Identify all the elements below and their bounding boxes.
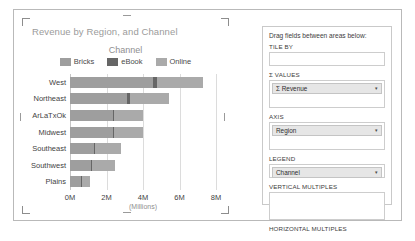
field-pill[interactable]: Channel▾	[272, 167, 382, 178]
field-zones-container: TILE BYΣ VALUESΣ Revenue▾AXISRegion▾LEGE…	[269, 43, 385, 232]
field-zone-dropzone[interactable]	[269, 192, 385, 220]
chart-x-tick-label: 8M	[211, 193, 221, 202]
chart-bar[interactable]: Southeast	[70, 143, 121, 154]
legend-item[interactable]: eBook	[107, 57, 142, 66]
chart-x-tick-label: 4M	[138, 193, 148, 202]
chevron-down-icon[interactable]: ▾	[375, 170, 378, 175]
panel-hint-text: Drag fields between areas below:	[269, 32, 385, 39]
field-zone-dropzone[interactable]: Region▾	[269, 122, 385, 150]
chart-bar-segment[interactable]	[82, 176, 90, 187]
legend-item[interactable]: Bricks	[60, 57, 94, 66]
chart-category-label: ArLaTxOk	[32, 110, 66, 121]
field-zone-dropzone[interactable]	[269, 52, 385, 66]
legend-item[interactable]: Online	[156, 57, 192, 66]
chart-gridline	[143, 74, 144, 190]
chart-bar-segment[interactable]	[130, 93, 168, 104]
field-zone-label: HORIZONTAL MULTIPLES	[269, 225, 385, 232]
legend-item-label: Bricks	[74, 57, 94, 66]
chart-bar-segment[interactable]	[70, 77, 153, 88]
chart-x-tick-label: 0M	[65, 193, 75, 202]
chart-category-label: Plains	[46, 176, 66, 187]
chart-bar[interactable]: West	[70, 77, 203, 88]
chart-bar[interactable]: Northeast	[70, 93, 169, 104]
chart-bar-segment[interactable]	[70, 143, 94, 154]
chevron-down-icon[interactable]: ▾	[375, 128, 378, 133]
field-zone-label: Σ VALUES	[269, 71, 385, 78]
chart-bar-segment[interactable]	[70, 110, 113, 121]
chart-gridline	[180, 74, 181, 190]
field-pill-label: Σ Revenue	[276, 85, 307, 92]
field-pill[interactable]: Region▾	[272, 125, 382, 136]
field-zone-label: TILE BY	[269, 43, 385, 50]
legend-item-label: eBook	[121, 57, 142, 66]
chart-bar-segment[interactable]	[114, 127, 143, 138]
chart-bar[interactable]: Midwest	[70, 127, 143, 138]
field-pill-label: Channel	[276, 169, 300, 176]
chart-bar-segment[interactable]	[70, 176, 81, 187]
chart-gridline	[216, 74, 217, 190]
chart-bar-segment[interactable]	[95, 143, 121, 154]
chart-bar-segment[interactable]	[70, 127, 113, 138]
field-zone-label: LEGEND	[269, 155, 385, 162]
chart-category-label: Southwest	[31, 160, 66, 171]
field-zone-dropzone[interactable]: Σ Revenue▾	[269, 80, 385, 108]
chart-bar[interactable]: Southwest	[70, 160, 115, 171]
chart-legend[interactable]: BrickseBookOnline	[22, 57, 229, 66]
chart-bar[interactable]: Plains	[70, 176, 90, 187]
chart-x-axis-title: (Millions)	[70, 203, 216, 210]
chart-bar-segment[interactable]	[157, 77, 204, 88]
field-zone-label: AXIS	[269, 113, 385, 120]
chart-bar-segment[interactable]	[70, 160, 91, 171]
chart-bar-segment[interactable]	[114, 110, 143, 121]
chart-bar[interactable]: ArLaTxOk	[70, 110, 143, 121]
screenshot-root: Revenue by Region, and Channel Channel B…	[0, 0, 415, 241]
chart-bar-segment[interactable]	[92, 160, 115, 171]
chart-panel[interactable]: Revenue by Region, and Channel Channel B…	[22, 18, 229, 213]
chart-category-label: Midwest	[38, 127, 66, 138]
legend-swatch-icon	[60, 58, 71, 66]
field-zone-label: VERTICAL MULTIPLES	[269, 183, 385, 190]
chart-category-label: West	[49, 77, 66, 88]
field-zone-dropzone[interactable]: Channel▾	[269, 164, 385, 178]
chart-plot-area[interactable]: 0M2M4M6M8MWestNortheastArLaTxOkMidwestSo…	[70, 74, 216, 190]
chart-category-label: Northeast	[33, 93, 66, 104]
legend-swatch-icon	[156, 58, 167, 66]
field-list-panel[interactable]: Drag fields between areas below: TILE BY…	[262, 26, 392, 205]
chart-title: Revenue by Region, and Channel	[32, 26, 178, 37]
field-pill[interactable]: Σ Revenue▾	[272, 83, 382, 94]
field-pill-label: Region	[276, 127, 296, 134]
chart-legend-title: Channel	[22, 45, 229, 55]
chevron-down-icon[interactable]: ▾	[375, 86, 378, 91]
legend-item-label: Online	[170, 57, 192, 66]
chart-category-label: Southeast	[32, 143, 66, 154]
chart-x-tick-label: 2M	[101, 193, 111, 202]
chart-bar-segment[interactable]	[70, 93, 127, 104]
legend-swatch-icon	[107, 58, 118, 66]
chart-x-tick-label: 6M	[174, 193, 184, 202]
